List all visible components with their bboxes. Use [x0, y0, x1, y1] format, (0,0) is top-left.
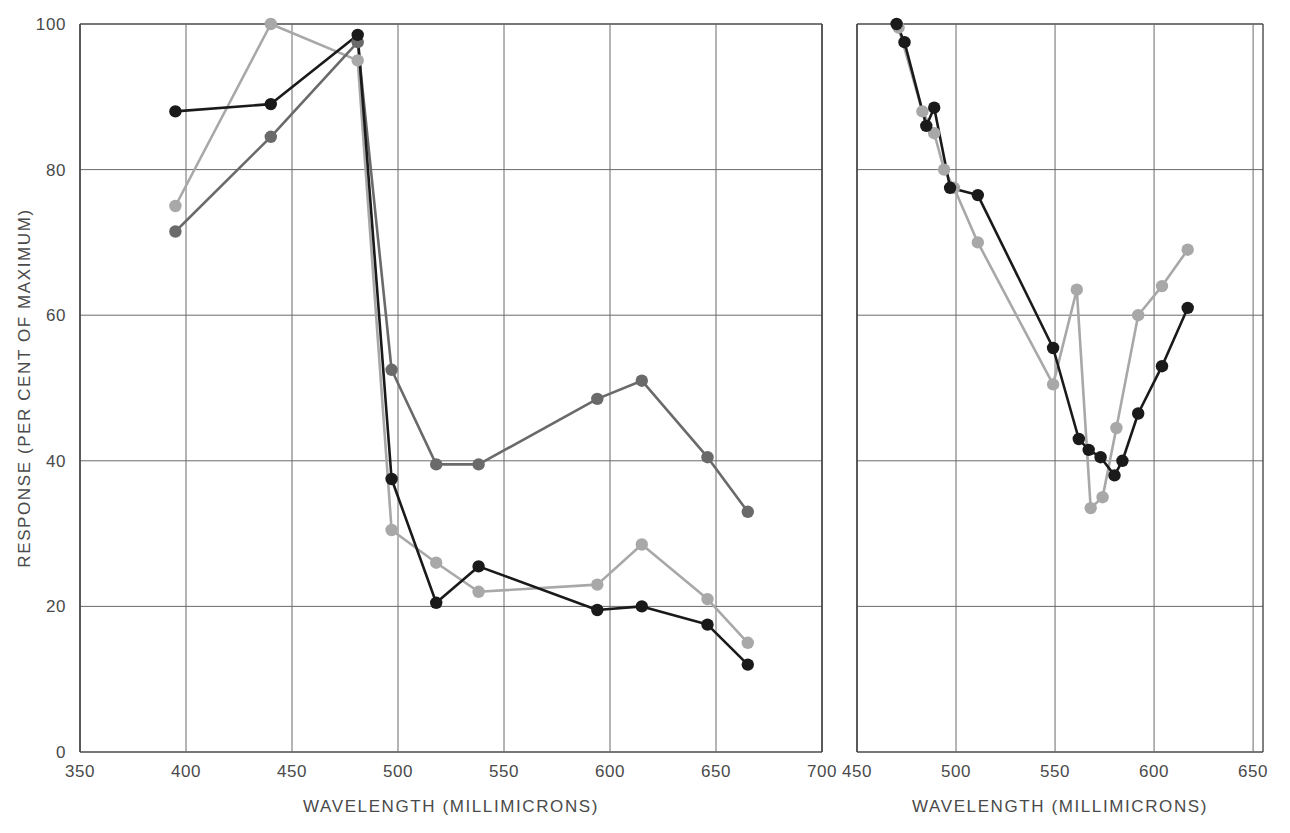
data-point — [636, 375, 648, 387]
data-point — [591, 578, 603, 590]
xtick-label-450: 450 — [277, 762, 307, 781]
xtick-label-400: 400 — [171, 762, 201, 781]
series-line-light-gray-right — [899, 28, 1188, 509]
data-point — [1116, 455, 1128, 467]
x-axis-title-right: WAVELENGTH (MILLIMICRONS) — [912, 797, 1208, 816]
panel-left: 350400450500550600650700020406080100RESP… — [15, 15, 837, 816]
xtick-label-650: 650 — [1238, 762, 1268, 781]
data-point — [472, 586, 484, 598]
figure-container: 350400450500550600650700020406080100RESP… — [0, 0, 1290, 833]
data-point — [352, 54, 364, 66]
data-point — [1132, 407, 1144, 419]
data-point — [636, 600, 648, 612]
data-point — [1071, 284, 1083, 296]
data-point — [1083, 444, 1095, 456]
data-point — [430, 557, 442, 569]
data-point — [1110, 422, 1122, 434]
xtick-label-550: 550 — [1040, 762, 1070, 781]
data-point — [1073, 433, 1085, 445]
data-point — [1047, 342, 1059, 354]
data-point — [920, 120, 932, 132]
data-point — [591, 393, 603, 405]
data-point — [430, 597, 442, 609]
data-point — [1132, 309, 1144, 321]
data-point — [472, 458, 484, 470]
x-axis-title-left: WAVELENGTH (MILLIMICRONS) — [303, 797, 599, 816]
ytick-label-100: 100 — [36, 15, 66, 34]
ytick-label-20: 20 — [46, 597, 66, 616]
ytick-label-0: 0 — [56, 743, 66, 762]
xtick-label-550: 550 — [489, 762, 519, 781]
xtick-label-600: 600 — [1139, 762, 1169, 781]
series-markers-dark-gray-left — [169, 36, 754, 518]
data-point — [972, 189, 984, 201]
series-markers-light-gray-left — [169, 18, 754, 649]
series-line-dark-gray-left — [175, 42, 747, 512]
xtick-label-500: 500 — [383, 762, 413, 781]
data-point — [898, 36, 910, 48]
data-point — [938, 163, 950, 175]
series-markers-light-gray-right — [892, 21, 1194, 514]
data-point — [944, 182, 956, 194]
data-point — [742, 637, 754, 649]
data-point — [265, 98, 277, 110]
xtick-label-600: 600 — [595, 762, 625, 781]
data-point — [1047, 378, 1059, 390]
data-point — [385, 524, 397, 536]
series-line-black-left — [175, 35, 747, 665]
xtick-label-700: 700 — [807, 762, 837, 781]
data-point — [169, 105, 181, 117]
dual-panel-spectral-response-chart: 350400450500550600650700020406080100RESP… — [0, 0, 1290, 833]
series-markers-black-left — [169, 29, 754, 671]
data-point — [972, 236, 984, 248]
data-point — [701, 451, 713, 463]
data-point — [169, 200, 181, 212]
data-point — [1156, 360, 1168, 372]
xtick-label-350: 350 — [65, 762, 95, 781]
series-markers-black-right — [890, 18, 1194, 482]
data-point — [430, 458, 442, 470]
data-point — [352, 29, 364, 41]
data-point — [742, 658, 754, 670]
data-point — [1182, 244, 1194, 256]
data-point — [385, 364, 397, 376]
data-point — [890, 18, 902, 30]
xtick-label-650: 650 — [701, 762, 731, 781]
data-point — [701, 593, 713, 605]
data-point — [928, 102, 940, 114]
ytick-label-80: 80 — [46, 161, 66, 180]
series-line-black-right — [897, 24, 1188, 475]
ytick-label-40: 40 — [46, 452, 66, 471]
data-point — [636, 538, 648, 550]
data-point — [1156, 280, 1168, 292]
data-point — [385, 473, 397, 485]
series-line-light-gray-left — [175, 24, 747, 643]
data-point — [742, 506, 754, 518]
data-point — [916, 105, 928, 117]
panel-right: 450500550600650WAVELENGTH (MILLIMICRONS) — [842, 24, 1268, 816]
xtick-label-450: 450 — [842, 762, 872, 781]
ytick-label-60: 60 — [46, 306, 66, 325]
data-point — [265, 131, 277, 143]
data-point — [472, 560, 484, 572]
data-point — [1094, 451, 1106, 463]
data-point — [265, 18, 277, 30]
data-point — [169, 225, 181, 237]
data-point — [701, 618, 713, 630]
data-point — [1108, 469, 1120, 481]
data-point — [1182, 302, 1194, 314]
y-axis-title: RESPONSE (PER CENT OF MAXIMUM) — [15, 208, 34, 567]
data-point — [1096, 491, 1108, 503]
xtick-label-500: 500 — [941, 762, 971, 781]
data-point — [591, 604, 603, 616]
data-point — [1085, 502, 1097, 514]
